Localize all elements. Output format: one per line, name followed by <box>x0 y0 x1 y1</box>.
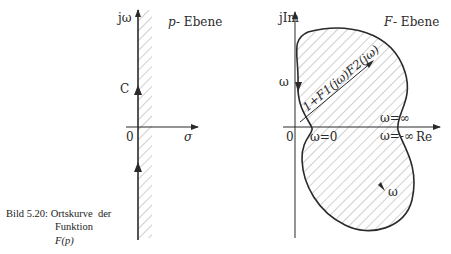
f-plane-title: - Ebene <box>393 15 439 29</box>
omega-inf-label: ω=∞ <box>380 111 410 125</box>
caption-line3: F(p) <box>55 234 74 247</box>
omega-label-bottom: ω <box>388 185 398 199</box>
caption-label: Bild 5.20: <box>6 208 48 219</box>
f-plane-title-var: F <box>383 15 393 29</box>
p-origin-label: 0 <box>126 130 134 144</box>
figure-caption: Bild 5.20: Ortskurve der <box>6 207 111 220</box>
p-plane: jω C 0 σ p - Ebene <box>116 10 222 240</box>
p-plane-title-var: p <box>168 15 176 29</box>
omega-zero-label: ω=0 <box>310 130 337 144</box>
caption-line1: Ortskurve der <box>51 208 112 219</box>
contour-label: C <box>120 82 129 96</box>
p-plane-title: - Ebene <box>176 15 222 29</box>
jim-axis-label: jIm <box>277 11 299 25</box>
omega-label-top: ω <box>279 75 289 89</box>
omega-neg-inf-label: ω=-∞ <box>380 129 414 143</box>
sigma-label: σ <box>184 130 193 144</box>
f-plane: jIm F - Ebene ω ω 0 ω=0 ω=∞ ω=-∞ Re 1+F1… <box>277 11 440 245</box>
f-origin-label: 0 <box>286 130 294 144</box>
caption-line2: Funktion <box>55 220 93 233</box>
re-axis-label: Re <box>416 130 432 144</box>
right-half-plane-hatch <box>138 10 152 238</box>
jw-axis-label: jω <box>116 11 132 25</box>
